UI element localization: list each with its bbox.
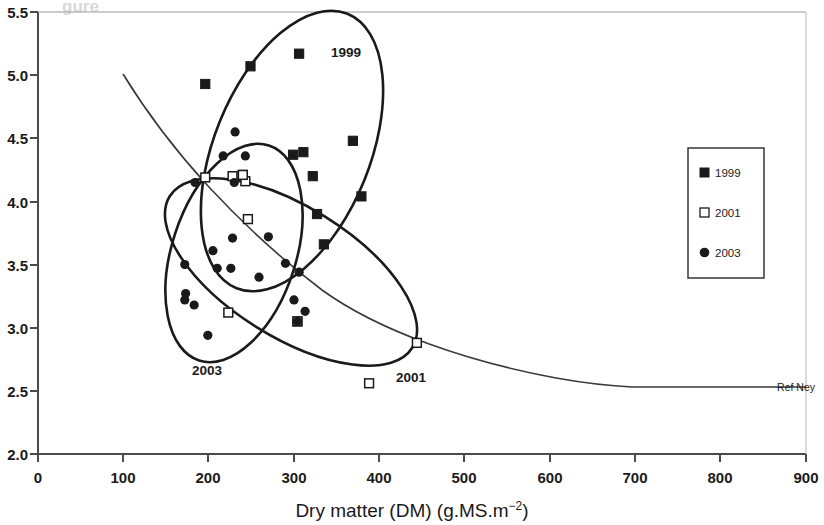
y-tick-label: 2.0 (7, 446, 28, 463)
legend-label-2001: 2001 (715, 207, 741, 219)
ghost-text-label: gure (62, 0, 99, 16)
data-point-2001 (238, 171, 247, 180)
reference-curve-group: Ref Ney (123, 74, 816, 393)
data-point-2001 (224, 308, 233, 317)
svg-text:Dry matter (DM) (g.MS.m−2): Dry matter (DM) (g.MS.m−2) (295, 499, 528, 521)
legend-marker-2003-icon (700, 248, 710, 258)
x-axis-title-tail: ) (522, 500, 528, 521)
y-tick-label: 3.0 (7, 320, 28, 337)
ellipse-2003: 2003 (140, 126, 328, 379)
data-point-2001 (412, 338, 421, 347)
data-point-2003 (281, 259, 290, 268)
reference-curve (123, 74, 806, 387)
ellipse-label-2001: 2001 (396, 370, 427, 385)
data-point-1999 (246, 62, 255, 71)
x-tick-label: 0 (34, 469, 42, 486)
ghost-bleed-text: gure (62, 0, 99, 16)
x-tick-label: 700 (622, 469, 647, 486)
data-point-2003 (264, 232, 273, 241)
data-point-2003 (289, 295, 298, 304)
data-point-2003 (300, 307, 309, 316)
data-point-2003 (241, 151, 250, 160)
data-point-1999 (319, 240, 328, 249)
x-axis-ticks: 0 100 200 300 400 500 600 700 800 900 (34, 454, 819, 486)
x-tick-label: 600 (537, 469, 562, 486)
scatter-chart: gure 5.5 5.0 4.5 4.0 3.5 3.0 2.5 2.0 (0, 0, 824, 525)
x-tick-label: 800 (707, 469, 732, 486)
y-tick-label: 4.5 (7, 130, 28, 147)
x-axis-title-superscript: −2 (509, 499, 523, 513)
data-point-2003 (226, 264, 235, 273)
data-point-2003 (293, 317, 302, 326)
data-point-1999 (312, 209, 321, 218)
y-tick-label: 2.5 (7, 383, 28, 400)
data-point-2003 (213, 264, 222, 273)
ellipse-2001: 2001 (135, 141, 446, 403)
data-point-1999 (299, 148, 308, 157)
x-axis-title-main: Dry matter (DM) (g.MS.m (295, 500, 508, 521)
ellipse-label-2003: 2003 (192, 363, 223, 378)
data-point-1999 (201, 79, 210, 88)
legend-label-2003: 2003 (715, 247, 741, 259)
y-tick-label: 4.0 (7, 194, 28, 211)
legend-label-1999: 1999 (715, 167, 741, 179)
reference-curve-label: Ref Ney (777, 381, 816, 393)
ellipse-outline-2001 (135, 141, 446, 403)
ellipse-label-1999: 1999 (331, 45, 361, 60)
y-tick-label: 5.5 (7, 4, 28, 21)
data-point-2003 (228, 233, 237, 242)
data-point-2003 (203, 331, 212, 340)
x-tick-label: 400 (366, 469, 391, 486)
data-markers (180, 49, 421, 388)
data-point-2003 (230, 178, 239, 187)
data-point-1999 (308, 172, 317, 181)
ellipse-outline-2003 (140, 126, 328, 379)
data-point-2001 (365, 379, 374, 388)
legend-marker-1999-icon (700, 168, 709, 177)
data-point-1999 (289, 150, 298, 159)
y-tick-label: 3.5 (7, 257, 28, 274)
legend-marker-2001-icon (700, 208, 709, 217)
x-axis-title: Dry matter (DM) (g.MS.m−2) (295, 499, 528, 521)
x-tick-label: 300 (281, 469, 306, 486)
data-point-2001 (201, 173, 210, 182)
x-tick-label: 100 (110, 469, 135, 486)
y-axis-ticks: 5.5 5.0 4.5 4.0 3.5 3.0 2.5 2.0 (7, 4, 38, 463)
data-point-2003 (190, 178, 199, 187)
data-point-2003 (219, 151, 228, 160)
data-point-2003 (254, 273, 263, 282)
data-point-2003 (190, 300, 199, 309)
data-point-2003 (208, 246, 217, 255)
data-point-1999 (357, 192, 366, 201)
data-point-1999 (295, 49, 304, 58)
x-tick-label: 200 (195, 469, 220, 486)
legend: 1999 2001 2003 (688, 148, 764, 278)
x-tick-label: 900 (793, 469, 818, 486)
data-point-2001 (244, 215, 253, 224)
data-point-2003 (295, 268, 304, 277)
x-tick-label: 500 (451, 469, 476, 486)
data-point-1999 (348, 136, 357, 145)
data-point-2003 (180, 260, 189, 269)
y-tick-label: 5.0 (7, 67, 28, 84)
data-point-2003 (180, 295, 189, 304)
data-point-2003 (231, 127, 240, 136)
